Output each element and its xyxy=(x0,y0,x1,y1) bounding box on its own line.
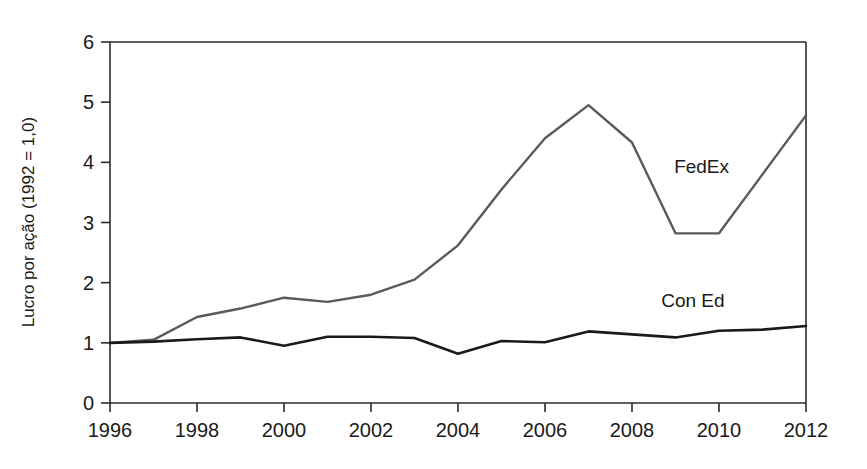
x-tick-label: 2008 xyxy=(610,419,655,441)
series-label-con-ed: Con Ed xyxy=(661,290,724,311)
y-tick-label: 6 xyxy=(83,31,94,53)
chart-container: 0123456 19961998200020022004200620082010… xyxy=(0,0,867,469)
x-tick-label: 2004 xyxy=(436,419,481,441)
chart-background xyxy=(0,0,867,469)
x-tick-label: 1998 xyxy=(175,419,220,441)
x-tick-label: 2010 xyxy=(697,419,742,441)
y-tick-label: 4 xyxy=(83,151,94,173)
y-tick-label: 3 xyxy=(83,212,94,234)
x-tick-label: 1996 xyxy=(88,419,133,441)
series-label-fedex: FedEx xyxy=(674,156,729,177)
x-tick-label: 2000 xyxy=(262,419,307,441)
line-chart: 0123456 19961998200020022004200620082010… xyxy=(0,0,867,469)
y-axis-title: Lucro por ação (1992 = 1,0) xyxy=(19,117,38,327)
y-tick-label: 2 xyxy=(83,272,94,294)
y-tick-label: 5 xyxy=(83,91,94,113)
x-tick-label: 2006 xyxy=(523,419,568,441)
y-tick-label: 1 xyxy=(83,332,94,354)
x-tick-label: 2002 xyxy=(349,419,394,441)
x-tick-label: 2012 xyxy=(784,419,829,441)
y-tick-label: 0 xyxy=(83,392,94,414)
